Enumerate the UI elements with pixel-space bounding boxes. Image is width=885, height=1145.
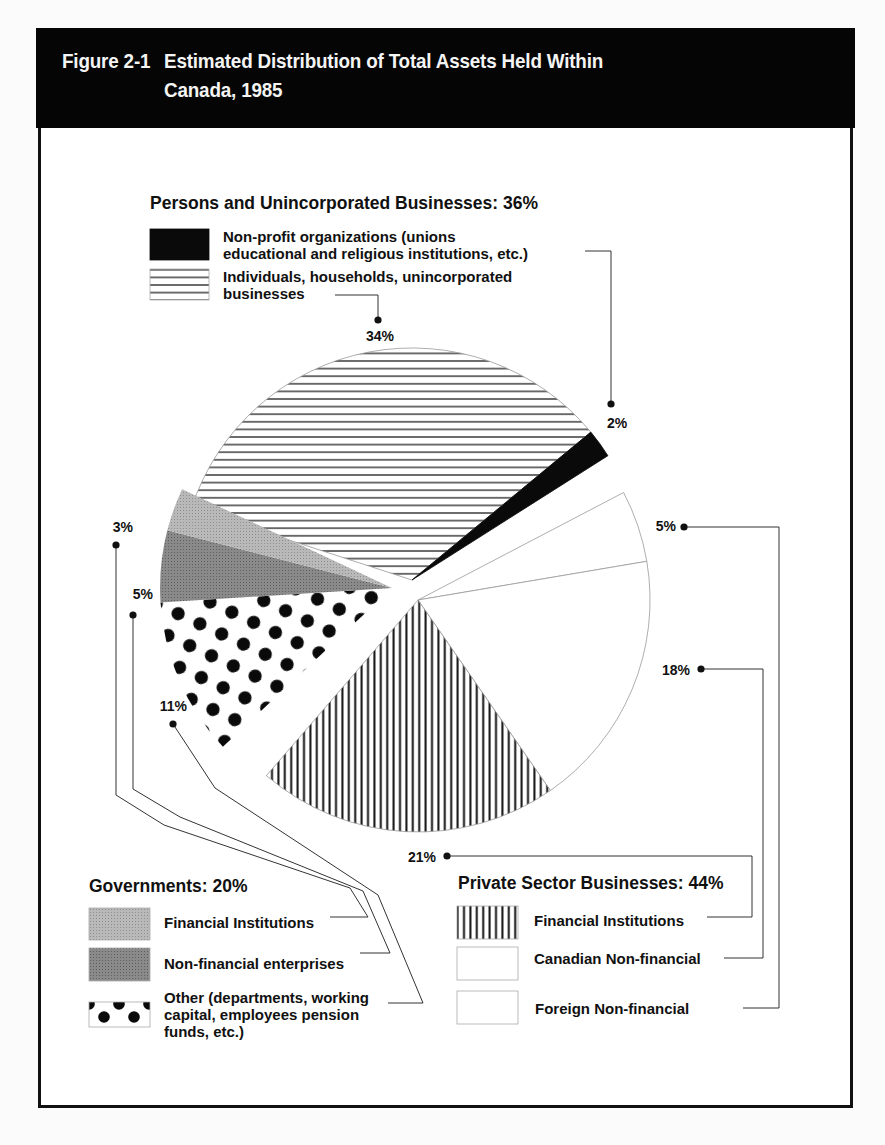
legend-label-nonprofit: Non-profit organizations (unions educati… (223, 228, 528, 262)
leader-line-canadian (701, 669, 763, 958)
legend-label-gov-financial: Financial Institutions (164, 914, 314, 931)
leader-dot-foreign (680, 523, 687, 530)
legend-label-gov-other-line-3: funds, etc.) (164, 1023, 369, 1040)
leader-dot-gov_fin (112, 541, 119, 548)
legend-label-individuals-line-2: businesses (223, 285, 512, 302)
legend-swatch-foreign (457, 991, 518, 1024)
legend-swatch-private_fin (457, 906, 518, 939)
legend-title-private: Private Sector Businesses: 44% (458, 873, 724, 894)
legend-label-gov-other-line-2: capital, employees pension (164, 1006, 369, 1023)
legend-label-gov-other: Other (departments, working capital, emp… (164, 989, 369, 1040)
legend-label-gov-nonfinancial: Non-financial enterprises (164, 955, 344, 972)
data-label-gov_fin: 3% (113, 519, 134, 535)
legend-title-persons: Persons and Unincorporated Businesses: 3… (150, 193, 538, 214)
data-label-canadian: 18% (662, 662, 691, 678)
leader-dot-nonprofit (607, 400, 614, 407)
leader-dot-canadian (697, 665, 704, 672)
legend-title-governments: Governments: 20% (89, 876, 248, 897)
data-label-foreign: 5% (656, 518, 677, 534)
legend-label-nonprofit-line-2: educational and religious institutions, … (223, 245, 528, 262)
legend-label-nonprofit-line-1: Non-profit organizations (unions (223, 228, 528, 245)
legend-swatch-gov_nonfin (89, 948, 150, 981)
leader-dot-individuals (374, 316, 381, 323)
data-label-gov_nonfin: 5% (133, 586, 154, 602)
legend-label-canadian-nonfinancial: Canadian Non-financial (534, 950, 701, 967)
legend-label-individuals: Individuals, households, unincorporated … (223, 268, 512, 302)
leader-line-foreign (684, 527, 779, 1008)
data-label-individuals: 34% (366, 328, 395, 344)
data-label-gov_other: 11% (160, 698, 188, 714)
data-label-nonprofit: 2% (607, 415, 628, 431)
legend-label-individuals-line-1: Individuals, households, unincorporated (223, 268, 512, 285)
legend-swatch-individuals (150, 269, 209, 300)
legend-label-private-financial: Financial Institutions (534, 912, 684, 929)
leader-dot-private_fin (443, 852, 450, 859)
legend-label-foreign-nonfinancial: Foreign Non-financial (535, 1000, 689, 1017)
leader-line-nonprofit (585, 251, 611, 404)
leader-dot-gov_nonfin (129, 611, 136, 618)
data-label-private_fin: 21% (408, 849, 437, 865)
legend-label-gov-other-line-1: Other (departments, working (164, 989, 369, 1006)
leader-dot-gov_other (169, 720, 176, 727)
legend-swatch-nonprofit (150, 229, 209, 260)
legend-swatch-gov_other (89, 1002, 150, 1027)
pie-chart: 34%2%5%18%21%11%5%3% (0, 0, 885, 1145)
legend-swatch-canadian (457, 947, 518, 980)
legend-swatch-gov_fin (89, 908, 150, 940)
